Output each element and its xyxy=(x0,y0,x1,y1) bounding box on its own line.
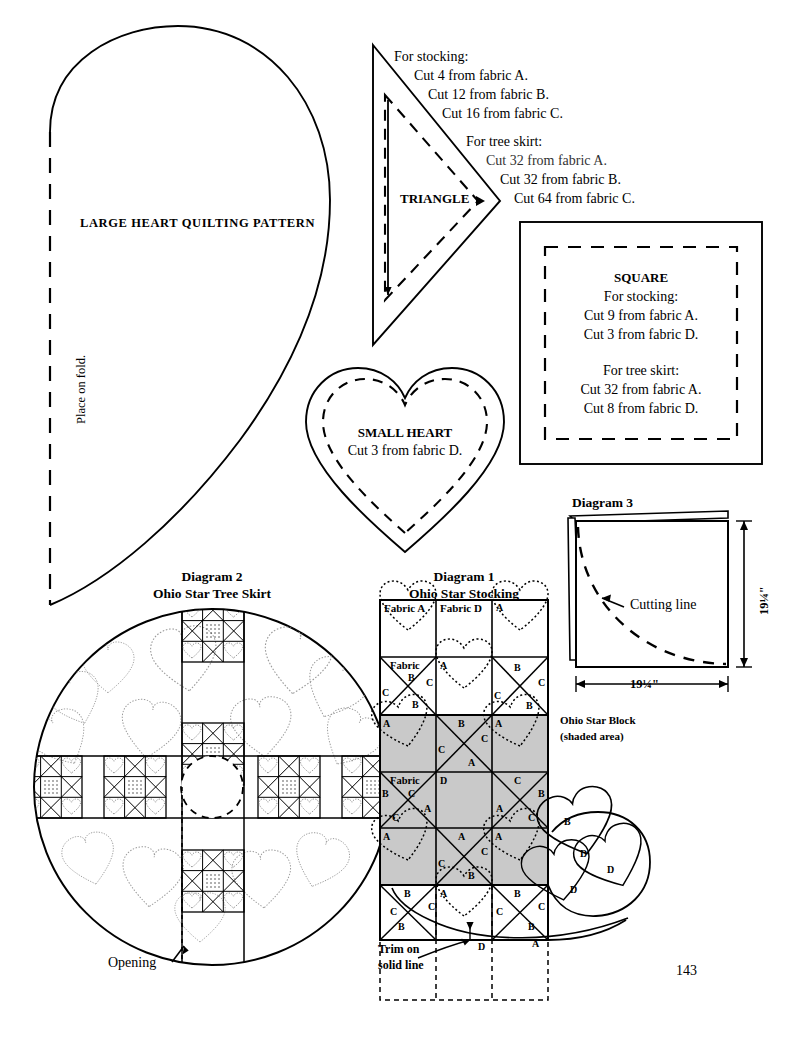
cell-label-r2c1-top: B xyxy=(408,672,415,683)
cell-label-r6c3-bottom: B xyxy=(528,921,535,932)
cell-label-r5c2-right: C xyxy=(481,846,488,857)
cell-label-r2c3-right: C xyxy=(538,677,545,688)
diagram1-title: Diagram 1 xyxy=(384,569,544,585)
cell-label-r5c2-left: C xyxy=(438,858,445,869)
square-treeskirt-heading: For tree skirt: xyxy=(545,363,737,380)
trim-label-line2: solid line xyxy=(378,958,424,972)
cell-label-r2c1-bottom: B xyxy=(412,699,419,710)
triangle-treeskirt-heading: For tree skirt: xyxy=(466,134,542,151)
cell-label-r4c3-left: A xyxy=(496,803,503,814)
square-treeskirt-line-2: Cut 8 from fabric D. xyxy=(545,401,737,418)
cell-label-r4c3-right: B xyxy=(538,788,545,799)
stocking-b-label: B xyxy=(564,816,571,827)
cell-label-r4c1-bottom: C xyxy=(392,812,399,823)
triangle-stocking-line-1: Cut 4 from fabric A. xyxy=(414,68,528,85)
square-label: SQUARE xyxy=(545,270,737,285)
square-stocking-line-1: Cut 9 from fabric A. xyxy=(545,308,737,325)
diagram3-width-dim: 19¼" xyxy=(630,677,659,692)
cell-label-r4c1-corner: Fabric xyxy=(390,775,420,786)
square-stocking-line-2: Cut 3 from fabric D. xyxy=(545,327,737,344)
cell-label-r4c2-top: C xyxy=(514,775,521,786)
triangle-treeskirt-line-1: Cut 32 from fabric A. xyxy=(486,153,607,170)
triangle-stocking-line-3: Cut 16 from fabric C. xyxy=(442,106,563,123)
triangle-treeskirt-line-3: Cut 64 from fabric C. xyxy=(514,191,635,208)
cell-label-r1c3: A xyxy=(496,602,503,613)
opening-label: Opening xyxy=(108,955,156,972)
triangle-label: TRIANGLE xyxy=(400,191,469,206)
diagram2-treeskirt-artwork xyxy=(20,600,404,975)
cell-label-r1c2: Fabric D xyxy=(440,602,482,614)
cell-label-r2c3-left: C xyxy=(494,690,501,701)
trim-label-line1: Trim on xyxy=(378,942,419,956)
cell-label-r6c2: A xyxy=(440,888,447,899)
center-hole xyxy=(181,756,243,818)
foot-heart-label-3: D xyxy=(570,884,577,895)
triangle-stocking-line-2: Cut 12 from fabric B. xyxy=(428,87,549,104)
cell-label-r2c1-right: C xyxy=(426,677,433,688)
small-heart-label: SMALL HEART xyxy=(330,425,480,440)
square-treeskirt-line-1: Cut 32 from fabric A. xyxy=(545,382,737,399)
cell-label-r2c1-corner: Fabric xyxy=(390,660,420,671)
pattern-artwork xyxy=(0,0,785,1052)
ohio-star-block-label-line2: (shaded area) xyxy=(560,730,624,743)
cell-label-r3c3: A xyxy=(495,718,502,729)
cell-label-r6c3-top: B xyxy=(514,888,521,899)
page-number: 143 xyxy=(676,963,697,980)
ohio-star-shaded-area xyxy=(380,715,548,885)
cell-label-r4c3-bottom: C xyxy=(528,812,535,823)
cell-label-r5c2-top: A xyxy=(458,831,465,842)
cell-label-r3c2-top: B xyxy=(458,718,465,729)
square-stocking-heading: For stocking: xyxy=(545,289,737,306)
cell-label-r6c3-right: C xyxy=(538,901,545,912)
cell-label-r6c1-left: C xyxy=(390,906,397,917)
cell-label-r2c1-left: C xyxy=(382,687,389,698)
cell-label-r2c3-top: B xyxy=(514,662,521,673)
diagram3-height-dim: 19¼" xyxy=(757,586,772,615)
cell-label-r3c2-right: C xyxy=(481,733,488,744)
cell-label-r3c1: A xyxy=(383,718,390,729)
diagram2-subtitle: Ohio Star Tree Skirt xyxy=(112,586,312,602)
cell-label-r4c2: D xyxy=(440,775,447,786)
cell-label-r6c1-right: C xyxy=(428,901,435,912)
triangle-stocking-heading: For stocking: xyxy=(394,49,468,66)
cell-label-r5c3: A xyxy=(495,831,502,842)
diagram1-subtitle: Ohio Star Stocking xyxy=(378,586,550,602)
cell-label-r6c1-top: B xyxy=(404,888,411,899)
cell-label-r2c2: A xyxy=(440,660,447,671)
cell-label-r4c1-right: A xyxy=(424,803,431,814)
cell-label-r6c1-bottom: B xyxy=(398,921,405,932)
diagram2-title: Diagram 2 xyxy=(112,569,312,585)
large-heart-outline xyxy=(50,26,330,605)
small-heart-line: Cut 3 from fabric D. xyxy=(320,443,490,460)
cell-label-bottom-a: A xyxy=(532,938,539,949)
cell-label-r5c2-bottom: B xyxy=(468,870,475,881)
triangle-treeskirt-line-2: Cut 32 from fabric B. xyxy=(500,172,621,189)
cell-label-r4c1-left: B xyxy=(382,788,389,799)
cell-label-r5c1: A xyxy=(383,831,390,842)
ohio-star-block-label-line1: Ohio Star Block xyxy=(560,714,636,727)
cell-label-bottom-d: D xyxy=(478,941,485,952)
cell-label-r3c2-left: C xyxy=(438,744,445,755)
small-heart-outline xyxy=(306,368,504,552)
quilting-pattern-page: LARGE HEART QUILTING PATTERN Place on fo… xyxy=(0,0,785,1052)
cell-label-r2c3-bottom: B xyxy=(526,700,533,711)
cell-label-r1c1: Fabric A xyxy=(384,602,425,614)
cutting-line-label: Cutting line xyxy=(630,597,697,614)
large-heart-title: LARGE HEART QUILTING PATTERN xyxy=(80,216,330,231)
place-on-fold-label: Place on fold. xyxy=(74,355,89,424)
foot-heart-label-1: D xyxy=(580,848,587,859)
cell-label-r4c1-top: C xyxy=(408,788,415,799)
diagram3-title: Diagram 3 xyxy=(572,495,633,511)
foot-heart-label-2: D xyxy=(607,864,614,875)
cell-label-r3c2-bottom: A xyxy=(468,757,475,768)
cell-label-r6c3-left: C xyxy=(496,906,503,917)
